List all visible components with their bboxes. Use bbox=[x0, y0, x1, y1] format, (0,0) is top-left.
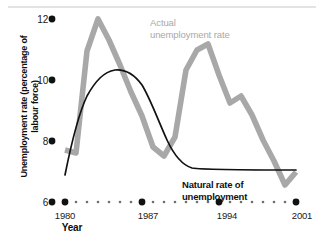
chart-figure: Unemployment rate (percentage of labour … bbox=[0, 0, 324, 249]
y-tick-dot-6 bbox=[49, 199, 56, 206]
y-tick-dot-12 bbox=[49, 16, 56, 23]
y-axis-tick-dots bbox=[49, 16, 56, 206]
x-tick-dot-1994 bbox=[216, 199, 223, 206]
x-tick-dot-1980 bbox=[62, 199, 69, 206]
y-tick-dot-10 bbox=[49, 77, 56, 84]
series-line-natural bbox=[65, 70, 296, 175]
chart-canvas bbox=[0, 0, 324, 249]
x-tick-dot-1987 bbox=[139, 199, 146, 206]
y-tick-dot-8 bbox=[49, 138, 56, 145]
x-tick-dot-2001 bbox=[293, 199, 300, 206]
x-axis-dotted-line bbox=[62, 199, 300, 206]
